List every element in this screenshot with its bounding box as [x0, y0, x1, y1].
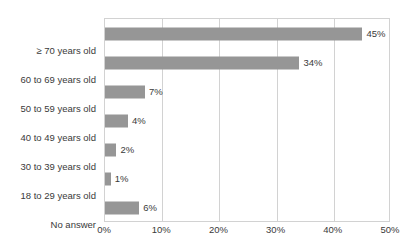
- gridline: [334, 19, 335, 221]
- bar-value-label: 2%: [120, 144, 134, 156]
- bar: [105, 85, 145, 98]
- x-tick-label: 50%: [380, 224, 399, 235]
- category-label: 60 to 69 years old: [20, 74, 96, 86]
- category-label: 30 to 39 years old: [20, 161, 96, 173]
- x-tick-label: 40%: [323, 224, 342, 235]
- x-tick-label: 30%: [266, 224, 285, 235]
- bar: [105, 56, 299, 69]
- gridline: [162, 19, 163, 221]
- plot-area: 45%34%7%4%2%1%6%: [104, 18, 390, 222]
- bar: [105, 202, 139, 215]
- bar: [105, 27, 362, 40]
- category-label: ≥ 70 years old: [36, 45, 96, 57]
- bar: [105, 115, 128, 128]
- clipped-title-row: [0, 0, 407, 9]
- category-label: 50 to 59 years old: [20, 103, 96, 115]
- gridline: [219, 19, 220, 221]
- bar-chart: ≥ 70 years old60 to 69 years old50 to 59…: [0, 0, 407, 247]
- category-axis-labels: ≥ 70 years old60 to 69 years old50 to 59…: [0, 18, 100, 222]
- x-tick-label: 10%: [152, 224, 171, 235]
- bar: [105, 144, 116, 157]
- bar: [105, 173, 111, 186]
- x-tick-label: 20%: [209, 224, 228, 235]
- category-label: 18 to 29 years old: [20, 190, 96, 202]
- bar-value-label: 6%: [143, 202, 157, 214]
- bar-value-label: 7%: [149, 86, 163, 98]
- bar-value-label: 34%: [303, 57, 322, 69]
- gridline: [277, 19, 278, 221]
- bar-value-label: 45%: [366, 28, 385, 40]
- bar-value-label: 4%: [132, 115, 146, 127]
- category-label: 40 to 49 years old: [20, 132, 96, 144]
- bar-value-label: 1%: [115, 173, 129, 185]
- x-tick-label: 0%: [97, 224, 111, 235]
- x-axis-tick-labels: 0%10%20%30%40%50%: [0, 224, 407, 240]
